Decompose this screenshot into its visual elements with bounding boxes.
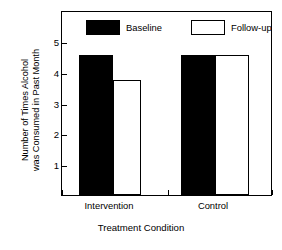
bar-intervention-baseline	[79, 55, 113, 195]
legend-label-followup: Follow-up	[231, 22, 272, 33]
plot-area: 1 2 3 4 5 Baseline	[61, 11, 272, 196]
y-axis-title-line-2: was Consumed in Past Month	[31, 49, 42, 171]
y-tick-label-5: 5	[54, 38, 59, 48]
x-tick-right-edge	[272, 190, 273, 195]
legend-swatch-baseline-icon	[86, 20, 120, 35]
bar-chart-figure: Number of Times Alcohol was Consumed in …	[0, 0, 282, 250]
legend-swatch-followup-icon	[191, 20, 225, 35]
y-axis-title-line-1: Number of Times Alcohol	[20, 59, 31, 161]
y-tick-label-3: 3	[54, 100, 59, 110]
bar-control-baseline	[181, 55, 215, 195]
x-tick-left-edge	[62, 190, 63, 195]
x-category-label-control: Control	[198, 200, 228, 211]
y-tick-label-1: 1	[54, 161, 59, 171]
bar-control-followup	[215, 55, 249, 195]
y-tick-label-2: 2	[54, 131, 59, 141]
y-axis-title: Number of Times Alcohol was Consumed in …	[14, 15, 48, 205]
legend-item-followup: Follow-up	[191, 20, 272, 35]
legend-label-baseline: Baseline	[126, 22, 162, 33]
x-category-label-intervention: Intervention	[85, 200, 134, 211]
x-tick-middle	[168, 190, 169, 195]
y-tick-label-4: 4	[54, 69, 59, 79]
bar-intervention-followup	[113, 80, 141, 196]
legend-item-baseline: Baseline	[86, 20, 162, 35]
x-axis-title: Treatment Condition	[0, 222, 282, 233]
